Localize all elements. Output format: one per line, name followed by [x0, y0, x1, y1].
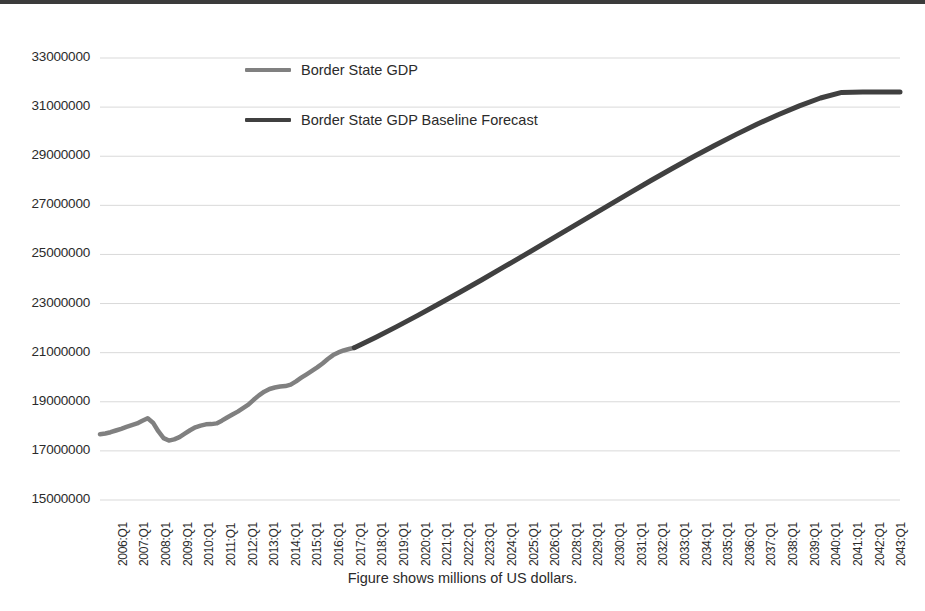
- x-axis-tick-label: 2041:Q1: [851, 522, 865, 566]
- chart-plot-canvas: [0, 0, 925, 611]
- legend-label: Border State GDP Baseline Forecast: [301, 112, 538, 128]
- legend-swatch-icon: [245, 118, 291, 122]
- x-axis-tick-label: 2014:Q1: [289, 522, 303, 566]
- x-axis-tick-label: 2043:Q1: [894, 522, 908, 566]
- x-axis-tick-label: 2036:Q1: [743, 522, 757, 566]
- x-axis-tick-label: 2015:Q1: [310, 522, 324, 566]
- x-axis-tick-label: 2039:Q1: [808, 522, 822, 566]
- legend-entry-1[interactable]: Border State GDP: [245, 62, 418, 78]
- x-axis-tick-label: 2026:Q1: [548, 522, 562, 566]
- figure-container: 3300000031000000290000002700000025000000…: [0, 0, 925, 611]
- x-axis-tick-label: 2011:Q1: [224, 523, 238, 566]
- y-axis-tick-label: 17000000: [14, 442, 90, 457]
- x-axis-tick-label: 2025:Q1: [527, 522, 541, 566]
- x-axis-tick-label: 2033:Q1: [678, 522, 692, 566]
- x-axis-tick-label: 2019:Q1: [397, 522, 411, 566]
- series-lines-group: [100, 92, 900, 441]
- x-axis-tick-label: 2032:Q1: [656, 522, 670, 566]
- x-axis-tick-label: 2024:Q1: [505, 522, 519, 566]
- x-axis-tick-label: 2034:Q1: [700, 522, 714, 566]
- x-axis-tick-label: 2012:Q1: [246, 522, 260, 566]
- x-axis-tick-label: 2016:Q1: [332, 522, 346, 566]
- x-axis-tick-label: 2013:Q1: [267, 522, 281, 566]
- figure-caption: Figure shows millions of US dollars.: [0, 570, 925, 586]
- series-line-2: [354, 92, 900, 348]
- y-axis-tick-label: 27000000: [14, 196, 90, 211]
- x-axis-tick-label: 2028:Q1: [570, 522, 584, 566]
- legend-label: Border State GDP: [301, 62, 418, 78]
- y-axis-tick-label: 25000000: [14, 245, 90, 260]
- x-axis-tick-label: 2037:Q1: [764, 522, 778, 566]
- x-axis-tick-label: 2020:Q1: [419, 522, 433, 566]
- x-axis-tick-label: 2038:Q1: [786, 522, 800, 566]
- x-axis-tick-label: 2010:Q1: [202, 522, 216, 566]
- x-axis-tick-label: 2021:Q1: [440, 522, 454, 566]
- x-axis-tick-label: 2007:Q1: [137, 522, 151, 566]
- x-axis-tick-label: 2042:Q1: [873, 522, 887, 566]
- y-axis-tick-label: 21000000: [14, 344, 90, 359]
- x-axis-tick-label: 2030:Q1: [613, 522, 627, 566]
- y-axis-tick-label: 31000000: [14, 98, 90, 113]
- x-axis-tick-label: 2018:Q1: [375, 522, 389, 566]
- x-axis-tick-label: 2023:Q1: [483, 522, 497, 566]
- y-axis-tick-label: 19000000: [14, 393, 90, 408]
- x-axis-tick-label: 2029:Q1: [591, 522, 605, 566]
- legend-swatch-icon: [245, 68, 291, 72]
- x-axis-tick-label: 2035:Q1: [721, 522, 735, 566]
- x-axis-tick-label: 2008:Q1: [159, 522, 173, 566]
- y-axis-tick-label: 23000000: [14, 295, 90, 310]
- legend-entry-2[interactable]: Border State GDP Baseline Forecast: [245, 112, 538, 128]
- series-line-1: [100, 348, 354, 441]
- x-axis-tick-label: 2022:Q1: [462, 522, 476, 566]
- y-axis-tick-label: 29000000: [14, 147, 90, 162]
- x-axis-tick-label: 2017:Q1: [354, 522, 368, 566]
- y-axis-tick-label: 15000000: [14, 491, 90, 506]
- x-axis-tick-label: 2040:Q1: [829, 522, 843, 566]
- x-axis-tick-label: 2009:Q1: [181, 522, 195, 566]
- y-axis-tick-label: 33000000: [14, 49, 90, 64]
- x-axis-tick-label: 2006:Q1: [116, 522, 130, 566]
- x-axis-tick-label: 2031:Q1: [635, 522, 649, 566]
